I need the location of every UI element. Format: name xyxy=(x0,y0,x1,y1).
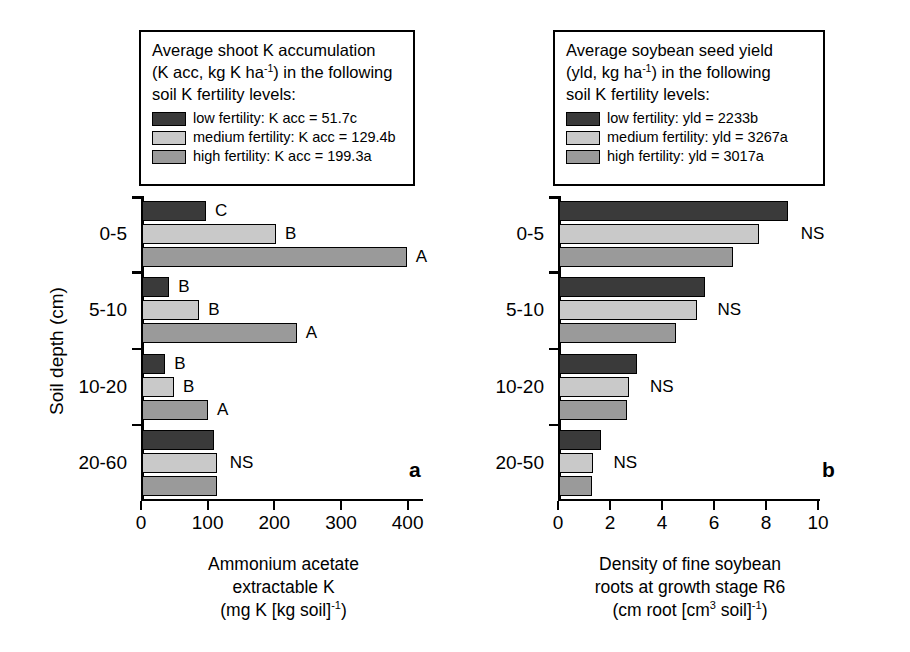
bar xyxy=(559,201,788,221)
bar xyxy=(559,354,637,374)
x-tick xyxy=(557,501,559,510)
bar xyxy=(559,453,593,473)
legend-rows-b: low fertility: yld = 2233b medium fertil… xyxy=(566,110,813,165)
legend-title-line3: soil K fertility levels: xyxy=(566,83,813,105)
bar xyxy=(559,224,759,244)
legend-item-high-b: high fertility: yld = 3017a xyxy=(566,148,813,165)
x-tick xyxy=(765,501,767,510)
significance-label: NS xyxy=(801,224,825,244)
y-tick xyxy=(549,196,558,199)
legend-title-line2: (yld, kg ha-1) in the following xyxy=(566,61,813,83)
legend-swatch-medium xyxy=(566,131,600,145)
bar xyxy=(559,277,705,297)
x-tick xyxy=(713,501,715,510)
bar xyxy=(559,247,733,267)
legend-item-medium-b: medium fertility: yld = 3267a xyxy=(566,129,813,146)
x-tick-label: 0 xyxy=(553,512,564,534)
x-tick-label: 10 xyxy=(807,512,828,534)
bar xyxy=(559,377,629,397)
bar xyxy=(559,300,697,320)
legend-swatch-low xyxy=(566,112,600,126)
panel-letter-b: b xyxy=(822,458,835,482)
legend-box-b: Average soybean seed yield (yld, kg ha-1… xyxy=(553,30,825,186)
legend-title-b: Average soybean seed yield (yld, kg ha-1… xyxy=(566,39,813,105)
x-tick xyxy=(817,501,819,510)
panel-b: Average soybean seed yield (yld, kg ha-1… xyxy=(0,0,910,652)
bar xyxy=(559,323,676,343)
x-axis-title-line2: roots at growth stage R6 xyxy=(545,576,835,599)
superscript: -1 xyxy=(752,599,762,611)
y-tick-label: 5-10 xyxy=(446,299,544,321)
legend-label-low: low fertility: yld = 2233b xyxy=(607,111,758,126)
x-axis-title-line1: Density of fine soybean xyxy=(545,553,835,576)
x-tick-label: 6 xyxy=(709,512,720,534)
x-tick xyxy=(661,501,663,510)
x-tick xyxy=(609,501,611,510)
x-tick-label: 2 xyxy=(605,512,616,534)
bar xyxy=(559,400,627,420)
plot-area-b: 02468100-5NS5-10NS10-20NS20-50NS xyxy=(558,196,818,501)
y-tick-label: 20-50 xyxy=(446,452,544,474)
legend-swatch-high xyxy=(566,150,600,164)
y-tick xyxy=(549,348,558,351)
x-axis-title-line3: (cm root [cm3 soil]-1) xyxy=(545,599,835,622)
x-axis-title-b: Density of fine soybean roots at growth … xyxy=(545,553,835,622)
y-tick xyxy=(549,424,558,427)
legend-label-medium: medium fertility: yld = 3267a xyxy=(607,130,788,145)
bar xyxy=(559,476,592,496)
significance-label: NS xyxy=(614,453,638,473)
y-tick-label: 10-20 xyxy=(446,376,544,398)
significance-label: NS xyxy=(718,300,742,320)
figure-root: Average shoot K accumulation (K acc, kg … xyxy=(0,0,910,652)
legend-title-line1: Average soybean seed yield xyxy=(566,39,813,61)
bar xyxy=(559,430,601,450)
x-tick-label: 8 xyxy=(761,512,772,534)
legend-item-low-b: low fertility: yld = 2233b xyxy=(566,110,813,127)
x-tick-label: 4 xyxy=(657,512,668,534)
significance-label: NS xyxy=(650,377,674,397)
legend-label-high: high fertility: yld = 3017a xyxy=(607,149,764,164)
x-axis-line-b xyxy=(558,499,820,502)
y-tick xyxy=(549,271,558,274)
y-tick-label: 0-5 xyxy=(446,223,544,245)
